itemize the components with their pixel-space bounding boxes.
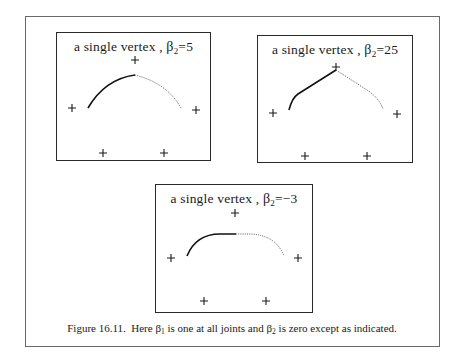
- plus-icon: [393, 110, 401, 118]
- plus-icon: [294, 254, 302, 262]
- plus-icon: [301, 152, 309, 160]
- plus-icon: [131, 56, 139, 64]
- plus-icon: [262, 297, 270, 305]
- plus-icon: [192, 106, 200, 114]
- plus-icon: [332, 63, 340, 71]
- solid-curve-segment: [187, 234, 236, 256]
- control-points: [167, 209, 302, 305]
- plus-icon: [99, 149, 107, 157]
- caption-text: Here: [131, 322, 155, 334]
- dotted-curve-segment: [236, 234, 284, 256]
- plus-icon: [269, 109, 277, 117]
- panel-beta2-neg3: a single vertex , β2=−3: [155, 184, 313, 313]
- plus-icon: [200, 297, 208, 305]
- panel-beta2-25: a single vertex , β2=25: [257, 35, 413, 163]
- curve-plot: [156, 185, 314, 314]
- plus-icon: [363, 152, 371, 160]
- plus-icon: [167, 254, 175, 262]
- plus-icon: [231, 209, 239, 217]
- curve-plot: [57, 33, 212, 162]
- dotted-curve-segment: [135, 75, 181, 108]
- caption-text: is zero except as indicated.: [276, 322, 397, 334]
- solid-curve-segment: [289, 70, 336, 110]
- caption-text: is one at all joints and: [165, 322, 267, 334]
- figure-caption: Figure 16.11. Here β1 is one at all join…: [0, 322, 464, 336]
- plus-icon: [160, 149, 168, 157]
- dotted-curve-segment: [336, 70, 383, 109]
- plus-icon: [68, 104, 76, 112]
- solid-curve-segment: [88, 75, 135, 108]
- panel-beta2-5: a single vertex , β2=5: [56, 32, 211, 161]
- caption-label: Figure 16.11.: [67, 322, 126, 334]
- curve-plot: [258, 36, 414, 164]
- control-points: [269, 63, 401, 160]
- control-points: [68, 56, 200, 157]
